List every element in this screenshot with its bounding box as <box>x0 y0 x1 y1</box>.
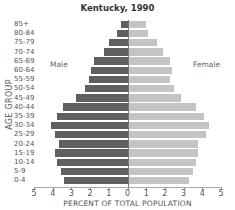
male-bar <box>85 85 128 93</box>
age-group-label: 85+ <box>14 20 48 29</box>
age-group-label: 80-84 <box>14 29 48 38</box>
female-bar <box>129 76 170 84</box>
age-group-label: 70-74 <box>14 48 48 57</box>
male-bar <box>76 94 128 102</box>
female-bar <box>129 140 198 148</box>
male-bar <box>94 57 128 65</box>
age-group-label: 65-69 <box>14 57 48 66</box>
age-group-label: 50-54 <box>14 84 48 93</box>
x-axis-label: PERCENT OF TOTAL POPULATION <box>0 199 235 208</box>
chart-title: Kentucky, 1990 <box>0 3 235 13</box>
age-group-label: 0-4 <box>14 176 48 185</box>
female-bar <box>129 85 174 93</box>
female-bar <box>129 48 163 56</box>
age-group-label: 35-39 <box>14 112 48 121</box>
age-group-label: 45-49 <box>14 94 48 103</box>
male-bar <box>89 76 128 84</box>
male-bar <box>61 168 128 176</box>
female-bar <box>129 131 206 139</box>
male-bar <box>104 48 128 56</box>
y-axis-label: AGE GROUP <box>5 70 14 140</box>
male-bar <box>57 159 128 167</box>
age-group-label: 5-9 <box>14 167 48 176</box>
age-group-label: 25-29 <box>14 130 48 139</box>
female-bar <box>129 39 157 47</box>
x-tick-label: 1 <box>140 189 152 198</box>
female-bar <box>129 57 170 65</box>
female-bar <box>129 103 196 111</box>
x-tick-label: 5 <box>28 189 40 198</box>
age-group-label: 10-14 <box>14 158 48 167</box>
legend-male: Male <box>50 60 68 69</box>
female-bar <box>129 30 148 38</box>
legend-female: Female <box>193 60 220 69</box>
x-tick-label: 4 <box>196 189 208 198</box>
male-bar <box>55 149 128 157</box>
male-bar <box>57 113 128 121</box>
female-bar <box>129 67 172 75</box>
male-bar <box>109 39 128 47</box>
male-bar <box>63 103 128 111</box>
x-tick-label: 5 <box>215 189 227 198</box>
age-group-label: 30-34 <box>14 121 48 130</box>
female-bar <box>129 177 189 185</box>
female-bar <box>129 149 198 157</box>
male-bar <box>51 122 128 130</box>
age-group-label: 40-44 <box>14 103 48 112</box>
female-bar <box>129 122 209 130</box>
center-axis-line <box>128 20 129 187</box>
age-group-label: 20-24 <box>14 140 48 149</box>
female-bar <box>129 168 193 176</box>
age-group-label: 55-59 <box>14 75 48 84</box>
male-bar <box>55 131 128 139</box>
male-bar <box>117 30 128 38</box>
male-bar <box>64 177 128 185</box>
x-tick-label: 3 <box>65 189 77 198</box>
age-group-label: 75-79 <box>14 38 48 47</box>
x-tick-label: 1 <box>103 189 115 198</box>
female-bar <box>129 113 204 121</box>
age-group-label: 15-19 <box>14 149 48 158</box>
male-bar <box>59 140 128 148</box>
x-tick-label: 3 <box>178 189 190 198</box>
female-bar <box>129 94 181 102</box>
female-bar <box>129 21 146 29</box>
age-group-label: 60-64 <box>14 66 48 75</box>
x-tick-label: 2 <box>159 189 171 198</box>
male-bar <box>121 21 128 29</box>
x-tick-label: 2 <box>84 189 96 198</box>
male-bar <box>91 67 128 75</box>
female-bar <box>129 159 196 167</box>
x-tick-label: 4 <box>47 189 59 198</box>
x-tick-label: 0 <box>122 189 134 198</box>
